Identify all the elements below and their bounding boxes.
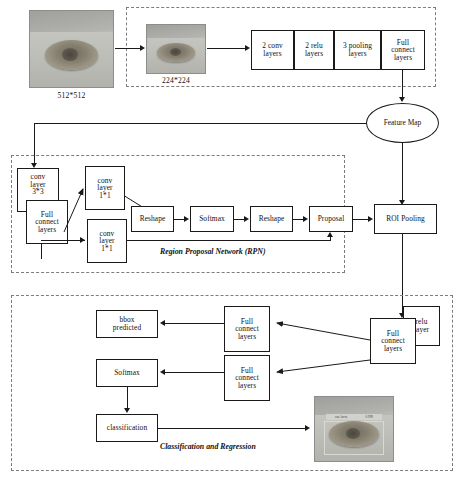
- arrowhead-reshape1-to-softmax: [184, 216, 189, 222]
- node-bbox-full-connect-layers[interactable]: Full connect layers: [224, 306, 270, 352]
- node-rpn-conv-layer-1x1-top[interactable]: conv layer 1*1: [85, 166, 125, 210]
- connector-fc-to-softmax: [163, 372, 224, 373]
- connector-feature-map-to-roi-pooling: [402, 143, 403, 203]
- node-rpn-softmax[interactable]: Softmax: [190, 206, 234, 232]
- node-label-line: layers: [235, 382, 259, 390]
- arrowhead-softmax-to-classification: [124, 408, 130, 413]
- node-head-softmax[interactable]: Softmax: [96, 359, 158, 387]
- connector-input-to-resized: [115, 48, 142, 49]
- arrowhead-fc-to-bbox-predicted: [160, 320, 165, 326]
- detection-score-label: one larva 0.999: [326, 414, 382, 420]
- node-rpn-reshape-1[interactable]: Reshape: [131, 206, 174, 232]
- node-label-line: layers: [381, 345, 405, 353]
- node-label-line: layers: [35, 226, 59, 234]
- group-label-line: Classification: [160, 442, 204, 451]
- arrowhead-reshape2-to-proposal: [303, 216, 308, 222]
- arrowhead-conv1x1-bottom-to-proposal: [327, 232, 333, 237]
- input-image: [29, 10, 114, 88]
- node-label-line: layers: [305, 50, 323, 58]
- node-label-line: Feature: [384, 118, 406, 127]
- connector-conv1x1-bottom-to-proposal-horizontal: [127, 240, 331, 241]
- node-label-line: layers: [391, 54, 415, 62]
- node-label-line: 3*3: [30, 188, 45, 196]
- photo-larva: [157, 43, 194, 62]
- diagram-canvas: 512*512 224*224 2 conv layers 2 relu lay…: [0, 0, 468, 484]
- node-label-line: Map: [408, 118, 422, 127]
- resized-image-caption: 224*224: [146, 76, 206, 85]
- node-rpn-full-connect-layers[interactable]: Full connect layers: [26, 200, 68, 244]
- node-bbox-predicted[interactable]: bbox predicted: [96, 310, 158, 338]
- node-2-relu-layers[interactable]: 2 relu layers: [294, 30, 334, 70]
- arrowhead-to-conv1x1-bottom: [80, 237, 85, 243]
- node-label-line: 1*1: [99, 245, 114, 253]
- rpn-group-label: Region Proposal Network (RPN): [160, 248, 265, 257]
- arrowhead-resized-to-backbone: [245, 45, 250, 51]
- node-head-full-connect-layers[interactable]: Full connect layers: [370, 318, 416, 364]
- classification-regression-group-label: Classification and Regression: [160, 443, 256, 452]
- connector-feature-map-to-rpn-horizontal: [34, 123, 367, 124]
- arrowhead-softmax-to-reshape2: [244, 216, 249, 222]
- node-2-conv-layers[interactable]: 2 conv layers: [251, 30, 294, 70]
- detection-result-image: one larva 0.999: [314, 396, 394, 462]
- resized-image: [146, 24, 206, 74]
- arrowhead-input-to-resized: [140, 45, 145, 51]
- node-rpn-reshape-2[interactable]: Reshape: [250, 206, 293, 232]
- node-label-line: 1*1: [97, 192, 112, 200]
- node-roi-pooling[interactable]: ROI Pooling: [374, 204, 437, 234]
- node-3-pooling-layers[interactable]: 3 pooling layers: [334, 30, 381, 70]
- group-label-line: and Regression: [206, 442, 256, 451]
- node-label-line: layer: [414, 326, 429, 334]
- connector-backbone-to-feature-map: [402, 70, 403, 99]
- node-label-line: layers: [262, 50, 283, 58]
- node-rpn-conv-layer-1x1-bottom[interactable]: conv layer 1*1: [87, 219, 127, 263]
- detection-class-text: one larva: [335, 415, 347, 419]
- input-image-caption: 512*512: [29, 91, 114, 100]
- connector-fc-to-bbox-predicted: [163, 323, 224, 324]
- photo-larva: [329, 421, 379, 447]
- node-label-line: layers: [343, 50, 372, 58]
- node-feature-map[interactable]: Feature Map: [366, 103, 439, 143]
- connector-full-connect-to-conv1x1-bottom: [41, 240, 85, 241]
- connector-classification-to-result: [158, 428, 308, 429]
- connector-resized-to-backbone: [207, 48, 247, 49]
- arrowhead-classification-to-result: [305, 425, 310, 431]
- arrowhead-proposal-to-roi-pooling: [368, 216, 373, 222]
- node-label-line: predicted: [113, 324, 141, 332]
- node-cls-full-connect-layers[interactable]: Full connect layers: [224, 355, 270, 401]
- node-rpn-proposal[interactable]: Proposal: [309, 206, 353, 232]
- photo-larva: [45, 40, 98, 70]
- node-classification[interactable]: classification: [96, 414, 158, 442]
- arrowhead-fc-to-softmax: [160, 369, 165, 375]
- arrowhead-backbone-to-feature-map: [399, 97, 405, 102]
- node-backbone-full-connect-layers[interactable]: Full connect layers: [381, 30, 425, 70]
- connector-full-connect-down: [41, 244, 42, 259]
- node-label-line: layers: [235, 333, 259, 341]
- detection-score-text: 0.999: [365, 415, 372, 419]
